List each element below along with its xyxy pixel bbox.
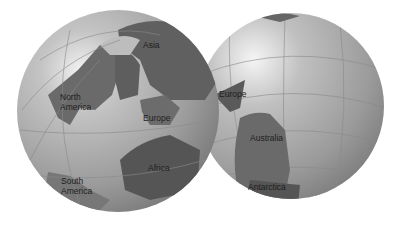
label-asia: Asia (143, 40, 160, 50)
label-europe-right: Europe (219, 89, 247, 99)
label-australia: Australia (250, 133, 283, 143)
globes-figure: Europe Australia Antarctica (0, 0, 393, 226)
right-globe: Europe Australia Antarctica (198, 13, 386, 210)
label-europe-left: Europe (143, 113, 171, 123)
label-africa: Africa (148, 163, 170, 173)
label-south-america-line1: South (61, 176, 83, 186)
label-north-america-line1: North (60, 92, 81, 102)
label-north-america-line2: America (60, 102, 91, 112)
label-south-america-line2: America (61, 186, 92, 196)
label-antarctica: Antarctica (248, 182, 286, 192)
left-globe: Asia North America Europe Africa South A… (17, 10, 219, 215)
